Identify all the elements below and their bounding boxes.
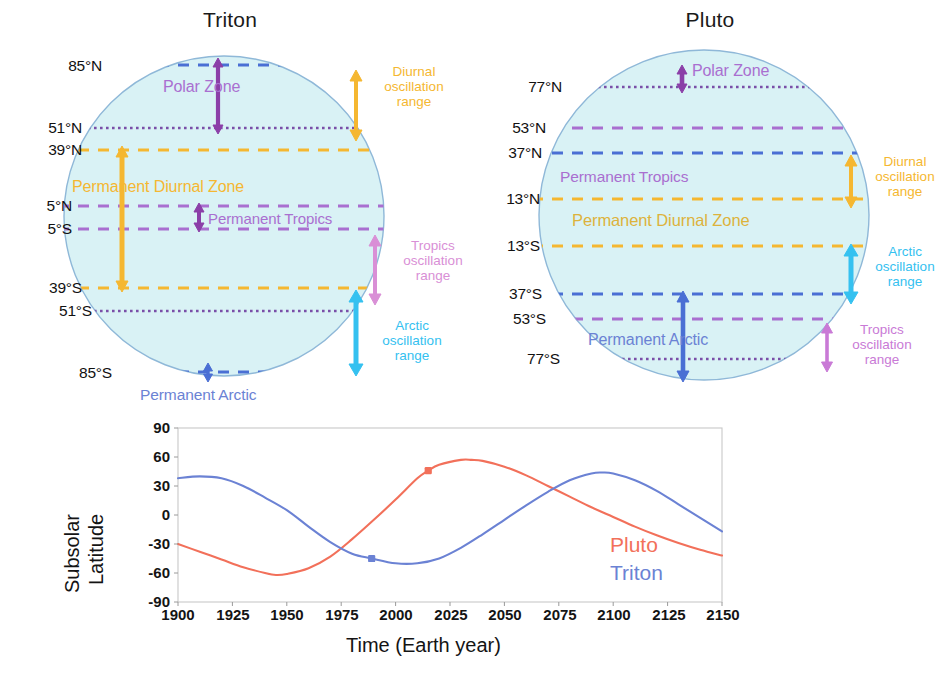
pluto-lat-label-53N: 53°N [474, 119, 546, 137]
pluto-lat-label-37N: 37°N [470, 144, 542, 162]
figure-root: Triton [0, 0, 946, 676]
chart-xtick-1900: 1900 [150, 606, 206, 623]
pluto-zone-permanent-arctic: Permanent Arctic [588, 331, 708, 349]
triton-zone-permanent-tropics: Permanent Tropics [208, 210, 332, 227]
chart-ytick-neg30: -30 [122, 535, 170, 552]
triton-zone-polar: Polar Zone [163, 78, 240, 96]
chart-marker-pluto [425, 467, 432, 474]
chart-xtick-2150: 2150 [695, 606, 751, 623]
chart-xtick-1925: 1925 [205, 606, 261, 623]
pluto-zone-permanent-tropics: Permanent Tropics [560, 168, 688, 186]
chart-ytick-90: 90 [128, 419, 170, 436]
chart-xtick-2050: 2050 [477, 606, 533, 623]
triton-lat-label-51N: 51°N [10, 119, 82, 137]
pluto-tropics-range-arrow [822, 323, 833, 372]
chart-ytick-0: 0 [128, 506, 170, 523]
triton-zone-permanent-arctic: Permanent Arctic [140, 386, 256, 404]
pluto-lat-label-13N: 13°N [468, 190, 540, 208]
triton-lat-label-5S: 5°S [10, 220, 72, 238]
pluto-lat-label-77N: 77°N [490, 78, 562, 96]
chart-xtick-2100: 2100 [586, 606, 642, 623]
pluto-lat-label-37S: 37°S [470, 285, 542, 303]
pluto-range-diurnal: Diurnal oscillation range [862, 154, 946, 199]
chart-marker-triton [368, 555, 375, 562]
chart-ytick-30: 30 [128, 477, 170, 494]
chart-legend-pluto: Pluto [610, 533, 658, 557]
chart-xtick-1975: 1975 [314, 606, 370, 623]
pluto-lat-label-77S: 77°S [488, 350, 560, 368]
chart-xtick-2025: 2025 [423, 606, 479, 623]
chart-xtick-2125: 2125 [641, 606, 697, 623]
chart-ylabel-group: Subsolar Latitude [58, 430, 88, 600]
chart-xtick-2075: 2075 [532, 606, 588, 623]
chart-xlabel: Time (Earth year) [346, 634, 501, 657]
chart-xtick-1950: 1950 [259, 606, 315, 623]
chart-ylabel-line-1: Subsolar [61, 514, 84, 593]
triton-lat-label-51S: 51°S [20, 302, 92, 320]
triton-lat-label-39S: 39°S [10, 279, 82, 297]
triton-range-diurnal: Diurnal oscillation range [368, 64, 460, 109]
chart-ytick-60: 60 [128, 448, 170, 465]
triton-diurnal-range-arrow [350, 70, 362, 141]
pluto-range-arctic: Arctic oscillation range [862, 244, 946, 289]
chart-xtick-2000: 2000 [368, 606, 424, 623]
chart-legend-triton: Triton [610, 561, 663, 585]
triton-lat-label-39N: 39°N [10, 141, 82, 159]
chart-ytick-neg60: -60 [122, 564, 170, 581]
triton-range-arctic: Arctic oscillation range [366, 318, 458, 363]
pluto-lat-label-13S: 13°S [468, 237, 540, 255]
pluto-zone-permanent-diurnal: Permanent Diurnal Zone [572, 211, 750, 230]
triton-lat-label-85S: 85°S [40, 364, 112, 382]
triton-zone-permanent-diurnal: Permanent Diurnal Zone [72, 178, 244, 196]
chart-ylabel-line-2: Latitude [85, 514, 108, 585]
pluto-zone-polar: Polar Zone [692, 62, 769, 80]
triton-lat-label-85N: 85°N [30, 57, 102, 75]
triton-lat-label-5N: 5°N [10, 197, 72, 215]
triton-range-tropics: Tropics oscillation range [388, 238, 478, 283]
pluto-lat-label-53S: 53°S [474, 310, 546, 328]
pluto-range-tropics: Tropics oscillation range [838, 322, 926, 367]
